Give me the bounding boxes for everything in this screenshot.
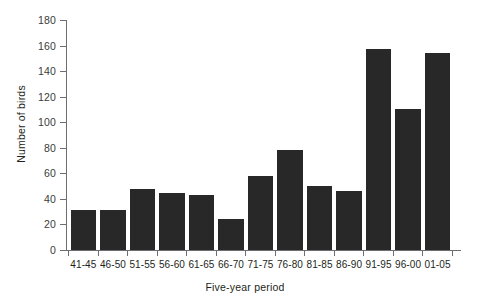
bar [159,193,184,251]
y-axis-title: Number of birds [15,54,27,194]
x-axis-tick [334,251,335,256]
bar [425,53,450,250]
x-axis-title: Five-year period [0,281,490,293]
x-axis-tick [275,251,276,256]
x-axis-tick [127,251,128,256]
x-axis-tick [186,251,187,256]
bar [307,186,332,250]
bar [189,195,214,250]
x-axis-tick [157,251,158,256]
x-axis-tick [304,251,305,256]
x-axis-tick [393,251,394,256]
x-axis-tick-label: 01-05 [418,259,458,271]
x-axis-tick [363,251,364,256]
bar [336,191,361,250]
x-axis-line [66,250,461,251]
bar [248,176,273,250]
y-axis-tick-label: 160 [16,41,56,52]
x-axis-tick [245,251,246,256]
x-axis-tick [216,251,217,256]
y-axis-tick-label: 180 [16,15,56,26]
bar [277,150,302,250]
bar [130,189,155,250]
y-axis-tick-label: 20 [16,219,56,230]
x-axis-tick [422,251,423,256]
bar [395,109,420,250]
bar [100,210,125,250]
plot-area [66,20,460,250]
bar [366,49,391,250]
bar [218,219,243,250]
y-axis-tick-label: 0 [16,245,56,256]
bar-chart-figure: 020406080100120140160180 41-4546-5051-55… [0,0,490,303]
y-axis-tick [60,250,66,251]
bar [71,210,96,250]
x-axis-tick [98,251,99,256]
x-axis-tick [452,251,453,256]
x-axis-tick [68,251,69,256]
y-axis-tick-label: 40 [16,194,56,205]
